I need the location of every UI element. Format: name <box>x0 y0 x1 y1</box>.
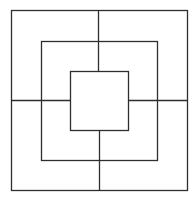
connectors-group <box>12 11 188 191</box>
board-diagram <box>0 0 196 201</box>
inner-square <box>71 72 129 131</box>
